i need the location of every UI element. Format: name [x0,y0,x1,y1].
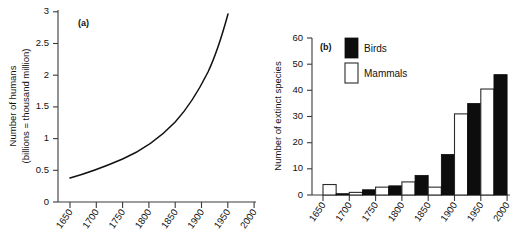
x-tick-label: 1800 [385,200,406,224]
bar-birds [336,194,349,195]
y-tick-label: 60 [292,32,303,43]
x-tick-label: 1900 [185,207,206,231]
panel-b-extinct-species: (b) 0 10 20 30 40 50 60 [263,0,526,244]
y-tick-label: 1 [44,132,49,143]
panel-b-legend: Birds Mammals [345,38,407,83]
x-tick-label: 1700 [80,207,101,231]
x-tick-label: 1900 [438,200,459,224]
y-tick-label: 0 [44,196,49,207]
y-tick-label: 3 [44,5,49,16]
x-tick-label: 1850 [159,207,180,231]
human-population-curve [70,14,228,178]
panel-a-x-ticks [70,202,254,208]
bar-mammals [428,187,441,195]
legend-label-mammals: Mammals [364,68,407,79]
panel-a-label: (a) [78,18,89,28]
bar-mammals [376,187,389,195]
x-tick-label: 1650 [54,207,75,231]
bar-mammals [402,182,415,195]
panel-a-y-ticks [53,12,58,202]
y-tick-label: 30 [292,110,303,121]
bar-birds [494,75,507,195]
legend-label-birds: Birds [364,43,387,54]
panel-b-x-ticks [323,195,507,201]
y-tick-label: 0.5 [36,164,49,175]
bar-mammals [455,114,468,195]
bar-birds [468,103,481,195]
y-tick-label: 0 [298,189,303,200]
panel-b-plot: (b) 0 10 20 30 40 50 60 [263,0,526,244]
y-tick-label: 10 [292,162,303,173]
panel-a-y-axis-title-line1: Number of humans [7,65,18,146]
panel-b-label: (b) [320,42,332,52]
x-tick-label: 2000 [238,207,259,231]
panel-b-y-ticks [307,38,312,195]
panel-a-plot: (a) 0 0.5 1 1.5 2 2.5 3 [0,0,263,244]
x-tick-label: 1750 [106,207,127,231]
birds-swatch-icon [345,38,358,58]
panel-a-y-axis-title-line2: (billions = thousand million) [20,49,31,164]
y-tick-label: 40 [292,84,303,95]
y-tick-label: 20 [292,136,303,147]
bar-birds [389,186,402,195]
panel-b-y-tick-labels: 0 10 20 30 40 50 60 [292,32,303,200]
bar-mammals [481,89,494,195]
panel-a-human-population: (a) 0 0.5 1 1.5 2 2.5 3 [0,0,263,244]
x-tick-label: 1950 [464,200,485,224]
bar-birds [441,154,454,195]
panel-a-x-tick-labels: 1650 1700 1750 1800 1850 1900 1950 2000 [54,207,259,231]
x-tick-label: 1950 [211,207,232,231]
figure: (a) 0 0.5 1 1.5 2 2.5 3 [0,0,526,244]
panel-a-y-tick-labels: 0 0.5 1 1.5 2 2.5 3 [36,5,49,206]
bar-mammals [323,185,336,195]
bar-birds [415,175,428,195]
y-tick-label: 1.5 [36,100,49,111]
bar-mammals [349,192,362,195]
y-tick-label: 50 [292,58,303,69]
bar-birds [362,190,375,195]
x-tick-label: 1850 [412,200,433,224]
x-tick-label: 1700 [333,200,354,224]
panel-b-y-axis-title: Number of extinct species [272,61,283,171]
x-tick-label: 1650 [307,200,328,224]
y-tick-label: 2.5 [36,37,49,48]
mammals-swatch-icon [345,63,358,83]
panel-b-x-tick-labels: 1650 1700 1750 1800 1850 1900 1950 2000 [307,200,512,224]
x-tick-label: 1800 [132,207,153,231]
x-tick-label: 2000 [491,200,512,224]
x-tick-label: 1750 [359,200,380,224]
y-tick-label: 2 [44,69,49,80]
